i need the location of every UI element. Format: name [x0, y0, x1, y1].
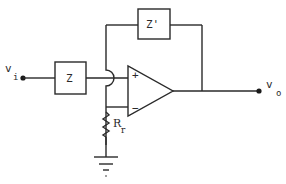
opamp: + − — [128, 66, 173, 116]
ground-icon — [94, 157, 118, 177]
opamp-plus-label: + — [132, 69, 139, 82]
z-prime-impedance: Z' — [138, 9, 170, 39]
z-prime-label: Z' — [146, 18, 159, 31]
input-label: v — [5, 62, 12, 75]
output-label: v — [266, 78, 273, 91]
z-label: Z — [66, 72, 73, 85]
resistor-subscript: r — [121, 125, 126, 135]
output-terminal — [256, 88, 261, 93]
circuit-diagram: v i Z Z' + − v o R r — [0, 0, 286, 184]
z-impedance: Z — [55, 62, 86, 94]
output-subscript: o — [276, 88, 281, 98]
input-subscript: i — [13, 72, 18, 82]
opamp-minus-label: − — [132, 102, 139, 115]
